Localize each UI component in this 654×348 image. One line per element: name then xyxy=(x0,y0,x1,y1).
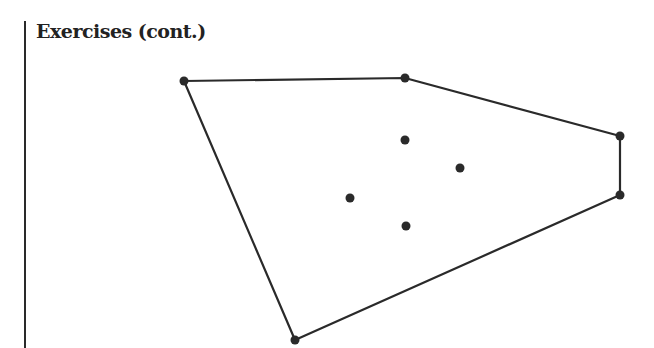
hull-vertex-point xyxy=(180,77,189,86)
interior-point xyxy=(456,164,465,173)
hull-vertex-point xyxy=(401,74,410,83)
convex-hull-diagram xyxy=(0,0,654,348)
hull-polygon xyxy=(184,78,620,340)
hull-vertex-point xyxy=(616,132,625,141)
interior-points xyxy=(346,136,465,231)
interior-point xyxy=(346,194,355,203)
hull-vertex-point xyxy=(616,191,625,200)
hull-vertex-point xyxy=(291,336,300,345)
hull-vertices xyxy=(180,74,625,345)
interior-point xyxy=(401,136,410,145)
interior-point xyxy=(402,222,411,231)
